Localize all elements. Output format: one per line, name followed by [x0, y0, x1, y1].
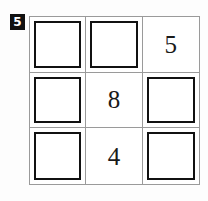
- answer-box-r3c3[interactable]: [147, 132, 195, 180]
- answer-box-r1c1[interactable]: [34, 21, 81, 68]
- clue-number-r3c2: 4: [108, 144, 121, 169]
- answer-box-r1c2[interactable]: [90, 21, 137, 68]
- grid-cell-r2c1[interactable]: [30, 73, 86, 129]
- grid-cell-r2c3[interactable]: [143, 73, 199, 129]
- answer-box-r3c1[interactable]: [34, 132, 81, 180]
- puzzle-worksheet: 5 5 8 4: [0, 0, 208, 201]
- grid-cell-r1c1[interactable]: [30, 17, 86, 73]
- number-grid: 5 8 4: [29, 16, 200, 185]
- clue-number-r1c3: 5: [165, 32, 178, 57]
- grid-cell-r3c2: 4: [86, 128, 142, 184]
- answer-box-r2c1[interactable]: [34, 77, 81, 124]
- grid-cell-r3c3[interactable]: [143, 128, 199, 184]
- answer-box-r2c3[interactable]: [147, 77, 195, 124]
- grid-cell-r3c1[interactable]: [30, 128, 86, 184]
- grid-cell-r1c2[interactable]: [86, 17, 142, 73]
- grid-cell-r2c2: 8: [86, 73, 142, 129]
- clue-number-r2c2: 8: [108, 87, 121, 112]
- problem-number-badge: 5: [10, 14, 25, 30]
- grid-cell-r1c3: 5: [143, 17, 199, 73]
